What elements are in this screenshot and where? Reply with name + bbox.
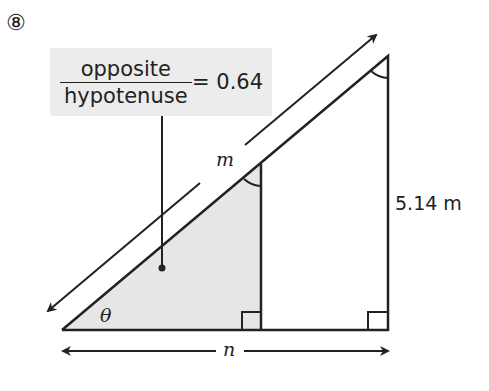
- diagram-canvas: ⑧ opposite hypotenuse = 0.64 m n θ 5.14 …: [0, 0, 489, 391]
- right-angle-marker-big: [368, 312, 388, 330]
- angle-arc-big: [371, 71, 388, 78]
- label-n: n: [223, 338, 235, 360]
- fraction-denominator: hypotenuse: [60, 83, 192, 109]
- label-m: m: [216, 148, 234, 170]
- label-theta: θ: [100, 304, 111, 326]
- callout-pointer-dot: [159, 265, 166, 272]
- question-number: ⑧: [6, 10, 26, 35]
- ratio-value: = 0.64: [192, 70, 263, 94]
- ratio-fraction: opposite hypotenuse: [60, 56, 192, 109]
- fraction-numerator: opposite: [60, 56, 192, 83]
- label-opposite-length: 5.14 m: [395, 192, 462, 214]
